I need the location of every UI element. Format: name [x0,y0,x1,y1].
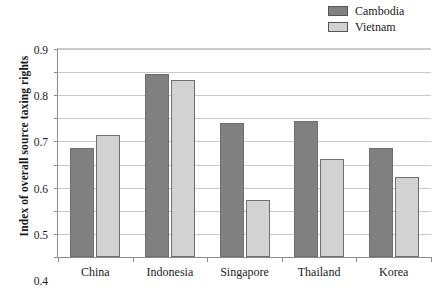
y-gridline [58,95,431,96]
plot-area: 0.90.80.70.60.50.40.30.20.10ChinaIndones… [57,48,431,257]
x-axis-tick [207,257,208,262]
legend-swatch-cambodia [328,6,348,16]
bar-indonesia-cambodia [145,74,169,257]
y-axis-tick-label: 0.5 [34,229,48,241]
x-axis-tick [58,257,59,262]
bar-korea-vietnam [395,177,419,257]
bar-singapore-vietnam [246,200,270,257]
x-axis-label-korea: Korea [379,265,408,280]
legend-swatch-vietnam [328,22,348,32]
x-axis-tick [431,257,432,262]
x-axis-label-singapore: Singapore [220,265,269,280]
y-gridline [58,49,431,50]
y-axis-tick: 0.3 [54,188,58,189]
x-axis-label-thailand: Thailand [298,265,341,280]
y-axis-tick-label: 0.9 [34,44,48,56]
y-axis-tick-label: 0.4 [34,275,48,287]
y-axis-tick-label: 0.8 [34,90,48,102]
y-axis-tick: 0.9 [54,49,58,50]
bar-china-vietnam [96,135,120,257]
x-axis-tick [133,257,134,262]
bar-china-cambodia [70,148,94,257]
x-axis-tick [282,257,283,262]
y-axis-tick-label: 0.7 [34,136,48,148]
y-axis-tick: 0.5 [54,141,58,142]
y-axis-tick: 0.4 [54,165,58,166]
x-axis-label-indonesia: Indonesia [147,265,194,280]
x-axis-tick [356,257,357,262]
bar-thailand-vietnam [320,159,344,257]
bar-indonesia-vietnam [171,80,195,257]
y-gridline [58,72,431,73]
bar-thailand-cambodia [294,121,318,257]
legend-label-cambodia: Cambodia [355,5,404,17]
x-axis-label-china: China [81,265,110,280]
y-axis-tick: 0.6 [54,118,58,119]
y-axis-tick: 0.2 [54,211,58,212]
bar-korea-cambodia [369,148,393,257]
legend-label-vietnam: Vietnam [355,21,396,33]
chart-legend: Cambodia Vietnam [328,4,438,36]
legend-item-cambodia: Cambodia [328,4,438,18]
bar-chart-figure: Cambodia Vietnam Index of overall source… [0,0,440,293]
legend-item-vietnam: Vietnam [328,20,438,34]
y-axis-tick: 0.7 [54,95,58,96]
y-axis-tick: 0.1 [54,234,58,235]
bar-singapore-cambodia [220,123,244,257]
y-axis-tick: 0.8 [54,72,58,73]
y-gridline [58,118,431,119]
x-axis-line [58,257,432,258]
y-axis-title: Index of overall source taxing rights [18,46,30,246]
y-axis-tick-label: 0.6 [34,183,48,195]
